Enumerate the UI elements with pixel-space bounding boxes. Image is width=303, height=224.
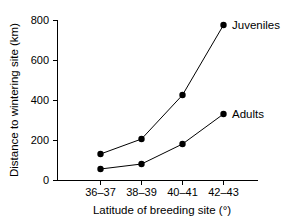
data-point <box>179 141 185 147</box>
data-point <box>138 136 144 142</box>
x-axis-title: Latitude of breeding site (°) <box>93 204 231 216</box>
data-point <box>179 92 185 98</box>
data-point <box>97 166 103 172</box>
y-tick-label: 200 <box>31 134 49 146</box>
data-point <box>138 161 144 167</box>
x-tick-label: 38–39 <box>126 186 157 198</box>
series-label-adults: Adults <box>232 108 264 120</box>
data-point <box>220 22 226 28</box>
chart-figure: 0 200 400 600 800 36–37 38–39 40–41 42–4… <box>0 0 303 224</box>
data-point <box>97 151 103 157</box>
series-label-juveniles: Juveniles <box>232 19 280 31</box>
x-tick-label: 40–41 <box>167 186 198 198</box>
x-tick-label: 42–43 <box>208 186 239 198</box>
y-tick-label: 600 <box>31 54 49 66</box>
x-tick-label: 36–37 <box>85 186 116 198</box>
line-chart: 0 200 400 600 800 36–37 38–39 40–41 42–4… <box>0 0 303 224</box>
y-tick-label: 0 <box>43 174 49 186</box>
y-tick-label: 400 <box>31 94 49 106</box>
data-point <box>220 111 226 117</box>
y-axis-title: Distance to wintering site (km) <box>8 23 20 177</box>
y-tick-label: 800 <box>31 14 49 26</box>
